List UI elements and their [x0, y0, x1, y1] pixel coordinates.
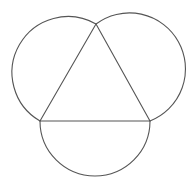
- diagram-canvas: [0, 0, 189, 184]
- equilateral-triangle: [40, 24, 150, 121]
- geometry-figure: [0, 0, 189, 184]
- left-semicircle-arc: [12, 16, 96, 121]
- bottom-semicircle-arc: [40, 121, 150, 176]
